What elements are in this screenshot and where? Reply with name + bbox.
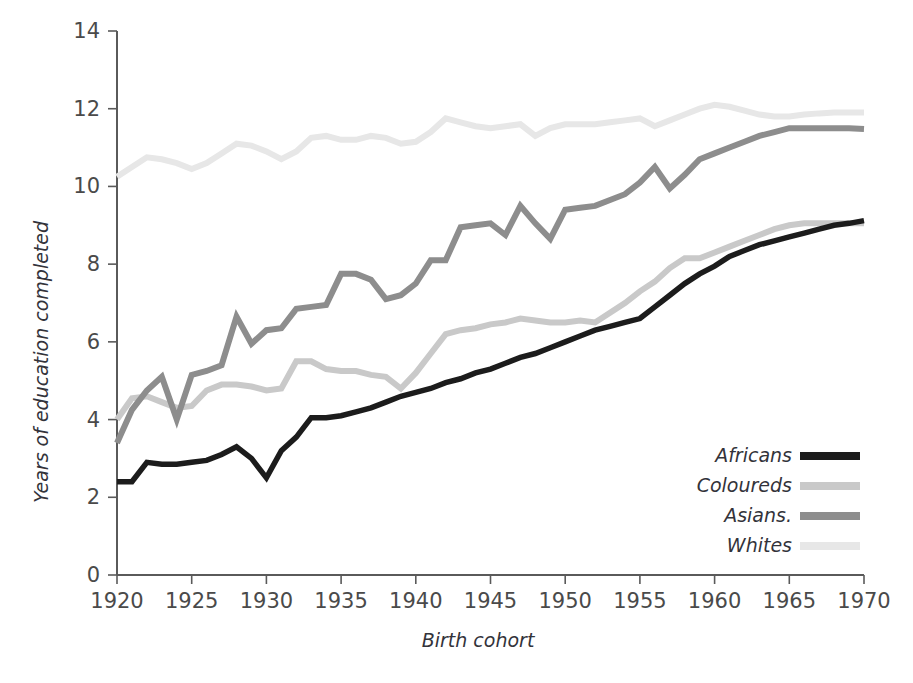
x-tick-label: 1935 bbox=[314, 589, 367, 613]
y-tick-label: 12 bbox=[73, 97, 100, 121]
legend-swatch-0 bbox=[800, 452, 860, 460]
chart-background bbox=[0, 0, 913, 683]
y-axis-title: Years of education completed bbox=[30, 220, 52, 503]
line-chart-svg: Years of education completed Birth cohor… bbox=[0, 0, 913, 683]
legend-label-3: Whites bbox=[727, 534, 792, 556]
chart-figure: Years of education completed Birth cohor… bbox=[0, 0, 913, 683]
legend-label-2: Asians. bbox=[722, 504, 792, 526]
x-tick-label: 1955 bbox=[613, 589, 666, 613]
y-tick-label: 4 bbox=[87, 408, 100, 432]
x-tick-label: 1960 bbox=[688, 589, 741, 613]
y-tick-label: 10 bbox=[73, 174, 100, 198]
legend-swatch-2 bbox=[800, 512, 860, 520]
x-tick-label: 1930 bbox=[240, 589, 293, 613]
x-tick-label: 1940 bbox=[389, 589, 442, 613]
legend-swatch-1 bbox=[800, 482, 860, 490]
x-tick-label: 1970 bbox=[837, 589, 890, 613]
x-tick-label: 1950 bbox=[538, 589, 591, 613]
y-tick-label: 8 bbox=[87, 252, 100, 276]
x-tick-label: 1925 bbox=[165, 589, 218, 613]
y-tick-label: 6 bbox=[87, 330, 100, 354]
x-tick-label: 1965 bbox=[763, 589, 816, 613]
x-tick-label: 1920 bbox=[90, 589, 143, 613]
y-tick-label: 2 bbox=[87, 485, 100, 509]
legend-label-1: Coloureds bbox=[697, 474, 792, 496]
x-tick-label: 1945 bbox=[464, 589, 517, 613]
y-tick-label: 0 bbox=[87, 563, 100, 587]
legend-label-0: Africans bbox=[713, 444, 792, 466]
legend-swatch-3 bbox=[800, 542, 860, 550]
x-axis-title: Birth cohort bbox=[422, 629, 536, 651]
y-tick-label: 14 bbox=[73, 19, 100, 43]
